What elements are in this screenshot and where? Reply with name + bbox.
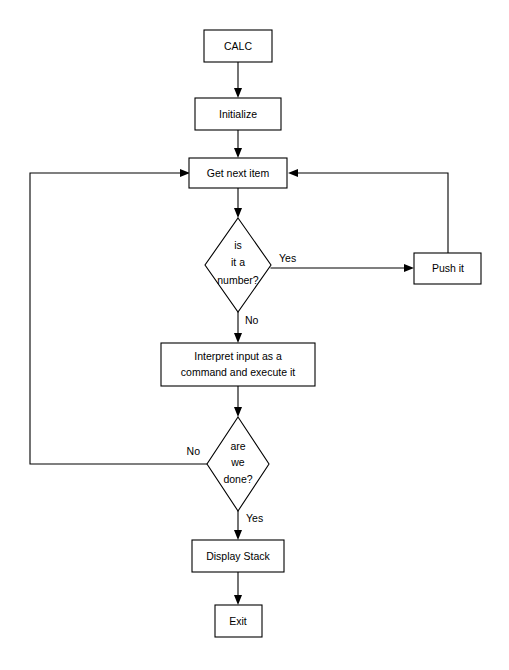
node-initialize[interactable]: Initialize [195,98,281,130]
node-is-it-a-number-label-line-2: it a [231,256,245,268]
edge-display-stack-to-exit [234,572,242,605]
arrow-head-icon [234,333,242,343]
edge-label-yes-are-we-done: Yes [246,512,263,524]
node-are-we-done-label-line-3: done? [223,473,252,485]
edge-calc-to-initialize [234,62,242,98]
edge-are-we-done-no-to-get-next-item-loop [30,169,207,464]
arrow-head-icon [234,208,242,218]
node-display-stack[interactable]: Display Stack [192,540,284,572]
edge-push-it-to-get-next-item-loop [288,169,448,253]
edge-are-we-done-yes-to-display-stack [234,511,242,540]
arrow-head-icon [288,169,298,177]
arrow-head-icon [234,530,242,540]
node-are-we-done-label-line-2: we [230,456,245,468]
node-calc[interactable]: CALC [204,30,272,62]
flowchart-canvas: Push it --> Interpret input --> left loo… [0,0,509,670]
edge-is-it-a-number-no-to-interpret [234,312,242,343]
node-interpret-input-label-line-2: command and execute it [181,366,295,378]
edge-get-next-item-to-is-it-a-number [234,188,242,218]
arrow-head-icon [234,595,242,605]
node-push-it-label: Push it [432,262,464,274]
node-interpret-input[interactable]: Interpret input as a command and execute… [161,343,315,386]
node-calc-label: CALC [224,40,252,52]
node-get-next-item-label: Get next item [207,167,270,179]
arrow-head-icon [234,407,242,417]
arrow-head-icon [404,264,414,272]
edge-label-yes-is-number: Yes [279,252,296,264]
node-is-it-a-number-label-line-3: number? [217,274,259,286]
node-are-we-done-label-line-1: are [230,440,245,452]
arrow-head-icon [234,88,242,98]
node-are-we-done[interactable]: are we done? [207,417,269,511]
node-is-it-a-number-label-line-1: is [234,239,242,251]
flowchart-svg: Push it --> Interpret input --> left loo… [0,0,509,670]
node-initialize-label: Initialize [219,108,257,120]
edge-is-it-a-number-yes-to-push-it [271,264,414,272]
edge-initialize-to-get-next-item [234,130,242,158]
node-display-stack-label: Display Stack [206,550,270,562]
node-exit[interactable]: Exit [215,605,262,637]
node-interpret-input-label-line-1: Interpret input as a [194,350,282,362]
arrow-head-icon [234,148,242,158]
node-is-it-a-number[interactable]: is it a number? [205,218,271,312]
edge-interpret-to-are-we-done [234,386,242,417]
edge-label-no-is-number: No [245,314,259,326]
node-get-next-item[interactable]: Get next item [189,158,287,188]
node-push-it[interactable]: Push it [414,253,481,284]
edge-label-no-are-we-done: No [187,445,201,457]
node-exit-label: Exit [229,615,247,627]
